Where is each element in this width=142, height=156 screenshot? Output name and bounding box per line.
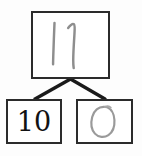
part-left-value-text: 10 bbox=[8, 101, 60, 142]
part-left-node-box[interactable]: 10 bbox=[6, 99, 62, 144]
connector-right-line bbox=[71, 79, 106, 99]
handwritten-zero bbox=[78, 101, 131, 142]
stroke-one-right bbox=[68, 24, 75, 68]
handwritten-eleven bbox=[33, 13, 108, 77]
stroke-one-left bbox=[53, 23, 54, 64]
part-right-node-box[interactable]: 0 bbox=[76, 99, 133, 144]
connector-left-line bbox=[35, 79, 71, 99]
number-bond-diagram: 11 10 0 bbox=[0, 0, 142, 156]
stroke-zero-oval bbox=[91, 107, 114, 137]
parent-node-box[interactable]: 11 bbox=[31, 11, 110, 79]
